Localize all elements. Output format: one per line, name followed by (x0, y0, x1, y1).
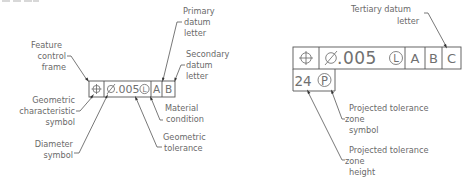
svg-text:datum: datum (186, 60, 213, 70)
svg-text:Material: Material (165, 103, 198, 113)
svg-text:Tertiary datum: Tertiary datum (350, 4, 411, 14)
svg-text:control: control (38, 51, 66, 61)
projected-tolerance-zone-icon: P (318, 74, 331, 88)
left-feature-control-frame: .005 L A B (89, 81, 175, 97)
gdt-diagram-canvas: .005 L A B Feature control frame Geometr… (0, 0, 472, 186)
svg-text:Primary: Primary (183, 6, 215, 16)
svg-text:condition: condition (166, 114, 204, 124)
position-icon (92, 84, 102, 94)
svg-text:Diameter: Diameter (35, 139, 74, 149)
svg-text:Geometric: Geometric (163, 132, 206, 142)
primary-datum-letter: A (153, 83, 161, 95)
label-tertiary-datum-letter: Tertiary datum letter (350, 4, 447, 49)
svg-text:zone: zone (345, 114, 365, 124)
least-material-condition-icon: L (390, 52, 403, 65)
label-feature-control-frame: Feature control frame (31, 40, 89, 82)
secondary-datum-letter: B (165, 83, 172, 95)
svg-text:letter: letter (186, 71, 209, 81)
right-feature-control-frame: .005 L A B C 24 P (293, 47, 461, 91)
svg-text:symbol: symbol (45, 117, 75, 127)
svg-text:symbol: symbol (43, 150, 73, 160)
tertiary-datum-letter: C (447, 51, 456, 66)
tolerance-value: .005 (337, 48, 377, 68)
svg-text:datum: datum (184, 17, 211, 27)
secondary-datum-letter: B (429, 51, 438, 66)
svg-text:Projected tolerance: Projected tolerance (349, 103, 429, 113)
position-icon (299, 51, 313, 65)
cutoff-top-text (2, 0, 39, 2)
projected-zone-height-value: 24 (295, 73, 312, 89)
svg-text:symbol: symbol (349, 125, 379, 135)
least-material-condition-icon: L (140, 84, 149, 94)
svg-text:letter: letter (397, 16, 420, 26)
svg-text:tolerance: tolerance (164, 143, 203, 153)
svg-text:Feature: Feature (31, 40, 62, 50)
diameter-icon (325, 51, 337, 65)
diameter-icon (107, 84, 115, 94)
tolerance-value: .005 (115, 83, 140, 96)
svg-text:letter: letter (184, 28, 207, 38)
primary-datum-letter: A (411, 51, 420, 66)
svg-text:Secondary: Secondary (186, 49, 230, 59)
svg-text:L: L (393, 53, 399, 64)
svg-text:Projected tolerance: Projected tolerance (349, 145, 429, 155)
label-projected-zone-symbol: Projected tolerance zone symbol (331, 90, 429, 136)
label-secondary-datum-letter: Secondary datum letter (175, 49, 230, 82)
label-geometric-characteristic-symbol: Geometric characteristic symbol (19, 94, 94, 127)
svg-text:zone: zone (345, 156, 365, 166)
svg-text:P: P (321, 74, 328, 88)
svg-text:Geometric: Geometric (32, 95, 75, 105)
svg-text:height: height (349, 167, 376, 177)
projected-tolerance-row: 24 P (293, 69, 335, 91)
svg-text:characteristic: characteristic (19, 106, 75, 116)
label-material-condition: Material condition (150, 96, 204, 124)
svg-text:frame: frame (42, 62, 66, 72)
